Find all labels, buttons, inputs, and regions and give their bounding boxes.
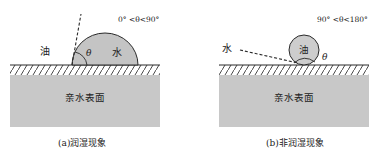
panel-wetting: 油 θ 水 0° <θ<90° 亲水表面 (a)润湿现象 — [10, 14, 160, 148]
water-droplet — [72, 33, 138, 65]
hydrophilic-surface-label: 亲水表面 — [274, 92, 314, 103]
water-droplet-label: 水 — [112, 47, 122, 58]
angle-range-label: 0° <θ<90° — [118, 15, 160, 24]
oil-droplet-label: 油 — [299, 44, 309, 55]
wetting-diagram: 油 θ 水 0° <θ<90° 亲水表面 (a)润湿现象 水 油 θ 90° <… — [0, 0, 376, 159]
theta-label: θ — [322, 52, 328, 62]
caption-wetting: (a)润湿现象 — [58, 137, 106, 148]
surface-hatching — [219, 65, 369, 75]
surface-hatching — [10, 65, 160, 75]
panel-non-wetting: 水 油 θ 90° <θ<180° 亲水表面 (b)非润湿现象 — [219, 15, 369, 148]
caption-non-wetting: (b)非润湿现象 — [266, 137, 324, 148]
theta-label: θ — [86, 48, 92, 58]
oil-phase-label: 油 — [40, 45, 50, 57]
angle-range-label: 90° <θ<180° — [317, 15, 368, 24]
hydrophilic-surface-label: 亲水表面 — [65, 92, 105, 103]
water-phase-label: 水 — [222, 43, 232, 54]
